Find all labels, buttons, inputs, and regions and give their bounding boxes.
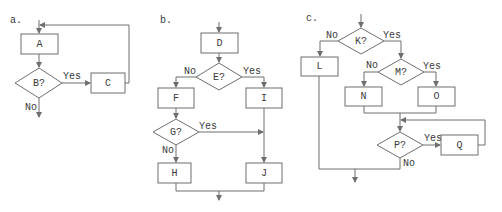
edge-label-m-no: No [366, 60, 378, 71]
panel-a-label: a. [10, 15, 22, 26]
panel-c-label: c. [306, 13, 318, 24]
decision-diamond-g: G? [153, 119, 199, 145]
process-box-i: I [246, 88, 282, 108]
arrow-m-no-to-n [364, 72, 378, 86]
panel-c: c. K? No Yes L M? No Yes N [301, 13, 485, 182]
panel-b-label: b. [160, 15, 172, 26]
decision-diamond-p: P? [377, 132, 423, 158]
decision-e-text: E? [213, 72, 225, 83]
merge-line-n-o [364, 106, 436, 113]
process-box-l: L [301, 57, 338, 76]
edge-label-g-yes: Yes [199, 121, 217, 132]
decision-g-text: G? [170, 127, 182, 138]
process-box-d-text: D [216, 38, 222, 49]
process-box-q-text: Q [456, 140, 462, 151]
decision-diamond-k: K? [338, 28, 384, 54]
process-box-i-text: I [261, 93, 267, 104]
process-box-o-text: O [433, 91, 439, 102]
edge-label-e-yes: Yes [243, 66, 261, 77]
edge-label-k-yes: Yes [383, 30, 401, 41]
process-box-c: C [91, 73, 125, 93]
process-box-f: F [158, 88, 194, 108]
decision-diamond-m: M? [378, 59, 424, 85]
decision-p-text: P? [394, 140, 406, 151]
arrow-e-no-to-f [176, 77, 196, 87]
panel-b: b. D E? No Yes F I G? Y [153, 15, 282, 200]
edge-label-k-no: No [326, 30, 338, 41]
arrow-e-yes-to-i [242, 77, 264, 87]
edge-label-g-no: No [162, 145, 174, 156]
edge-label-p-yes: Yes [424, 133, 442, 144]
process-box-h-text: H [171, 168, 177, 179]
decision-k-text: K? [355, 36, 367, 47]
arrow-k-yes-to-m [384, 41, 401, 58]
process-box-n: N [345, 87, 382, 106]
process-box-h: H [158, 163, 191, 183]
process-box-a: A [21, 34, 58, 54]
arrow-m-yes-to-o [424, 72, 436, 86]
process-box-j: J [246, 163, 282, 183]
edge-label-no: No [25, 102, 37, 113]
decision-b-text: B? [33, 78, 45, 89]
process-box-c-text: C [105, 78, 111, 89]
process-box-o: O [418, 87, 455, 106]
flowchart-canvas: a. A B? Yes C No b. D [0, 0, 502, 212]
arrow-k-no-to-l [320, 41, 338, 56]
panel-a: a. A B? Yes C No [10, 15, 129, 117]
process-box-n-text: N [360, 91, 366, 102]
process-box-l-text: L [316, 61, 322, 72]
decision-diamond-e: E? [196, 63, 242, 90]
edge-label-m-yes: Yes [423, 61, 441, 72]
merge-line-h-j [176, 183, 264, 191]
process-box-q: Q [441, 135, 478, 155]
decision-diamond-b: B? [15, 68, 62, 98]
process-box-d: D [201, 33, 238, 53]
edge-label-p-no: No [403, 158, 415, 169]
edge-label-yes: Yes [63, 71, 81, 82]
edge-label-e-no: No [184, 66, 196, 77]
process-box-j-text: J [261, 168, 267, 179]
process-box-a-text: A [36, 39, 42, 50]
process-box-f-text: F [173, 93, 179, 104]
decision-m-text: M? [395, 67, 407, 78]
